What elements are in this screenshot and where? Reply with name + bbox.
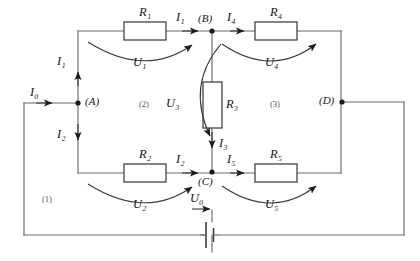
current-label-I2-bottom: I₂ <box>176 153 185 166</box>
resistor-label-R3: R₃ <box>226 98 238 111</box>
resistor-label-R2: R₂ <box>139 148 151 161</box>
node-label-C: (C) <box>198 176 213 187</box>
loop-label-1: (1) <box>42 195 52 204</box>
voltage-label-U1: U₁ <box>133 56 146 69</box>
loop-label-2: (2) <box>139 100 149 109</box>
voltage-label-U4: U₄ <box>265 56 278 69</box>
top-branch-wires <box>166 31 341 102</box>
voltage-label-U0: U₀ <box>190 192 203 205</box>
node-dot-D <box>339 99 344 104</box>
resistor-box-R2 <box>124 164 166 182</box>
node-dot-A <box>75 100 80 105</box>
resistor-label-R1: R₁ <box>139 6 151 19</box>
current-label-I0: I₀ <box>30 86 39 99</box>
current-label-I5: I₅ <box>227 153 236 166</box>
resistor-box-R3 <box>203 82 222 128</box>
loop-label-3: (3) <box>270 100 280 109</box>
bottom-branch-wires <box>166 102 341 173</box>
node-label-D: (D) <box>319 95 334 106</box>
resistor-box-R1 <box>124 22 166 40</box>
resistor-label-R5: R₅ <box>270 148 282 161</box>
node-dot-C <box>209 169 214 174</box>
voltage-source-U0 <box>192 209 218 252</box>
current-label-I1-vertical: I₁ <box>57 55 66 68</box>
node-label-A: (A) <box>85 96 99 107</box>
voltage-label-U3: U₃ <box>166 97 179 110</box>
node-label-B: (B) <box>198 13 212 24</box>
voltage-label-U2: U₂ <box>133 198 146 211</box>
circuit-diagram: R₁ R₂ R₃ R₄ R₅ U₁ U₂ U₃ U₄ U₅ U₀ I₀ I₁ I… <box>0 0 420 261</box>
resistor-box-R5 <box>255 164 297 182</box>
current-label-I4: I₄ <box>227 11 236 24</box>
resistor-box-R4 <box>255 22 297 40</box>
voltage-label-U5: U₅ <box>265 198 278 211</box>
current-label-I3: I₃ <box>219 137 228 150</box>
node-dot-B <box>209 28 214 33</box>
current-label-I2-vertical: I₂ <box>57 128 66 141</box>
resistor-label-R4: R₄ <box>270 6 282 19</box>
current-label-I1-top: I₁ <box>176 11 185 24</box>
